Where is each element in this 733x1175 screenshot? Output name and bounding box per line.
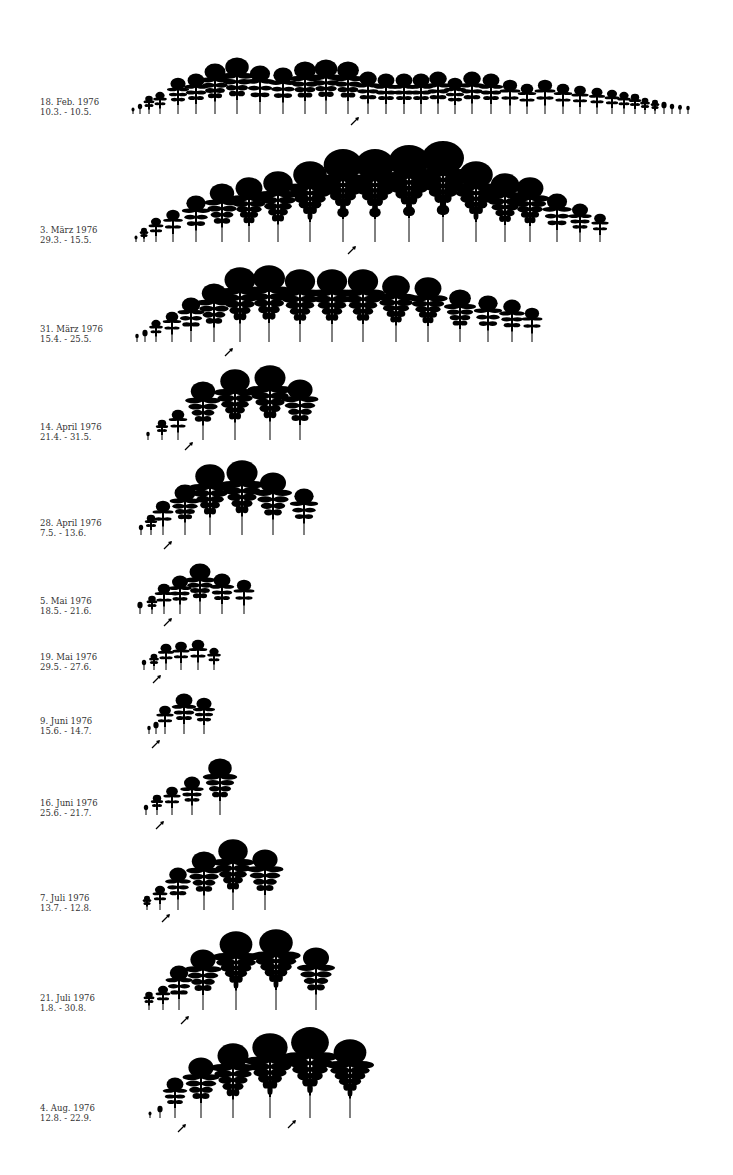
- leaf-icon: [157, 1106, 162, 1118]
- leaf-icon: [554, 84, 572, 114]
- leaf-icon: [245, 66, 275, 114]
- leaf-icon: [132, 108, 135, 115]
- leaf-icon: [135, 236, 138, 243]
- arrow-icon: [153, 675, 161, 683]
- leaf-icon: [479, 74, 504, 114]
- leaf-row-2: [135, 141, 609, 254]
- arrow-icon: [178, 1124, 186, 1132]
- leaf-icon: [142, 660, 146, 670]
- leaf-series-diagram: [0, 0, 733, 1175]
- leaf-icon: [153, 886, 168, 910]
- leaf-icon: [310, 269, 354, 342]
- leaf-icon: [180, 777, 203, 815]
- leaf-icon: [425, 72, 451, 114]
- leaf-icon: [165, 966, 192, 1010]
- leaf-icon: [140, 228, 149, 242]
- leaf-icon: [153, 92, 167, 114]
- leaf-icon: [568, 204, 591, 242]
- leaf-icon: [156, 986, 171, 1010]
- leaf-icon: [213, 369, 256, 440]
- leaf-row-10: [143, 839, 284, 922]
- leaf-icon: [234, 580, 255, 614]
- leaf-icon: [172, 694, 197, 734]
- leaf-icon: [211, 839, 254, 910]
- leaf-icon: [247, 849, 284, 910]
- leaf-icon: [661, 102, 666, 114]
- leaf-icon: [143, 992, 154, 1010]
- leaf-icon: [341, 269, 385, 342]
- leaf-icon: [678, 105, 682, 114]
- arrow-icon: [181, 1016, 189, 1024]
- leaf-icon: [374, 74, 399, 114]
- leaf-icon: [149, 1112, 152, 1119]
- leaf-icon: [145, 515, 157, 535]
- leaf-icon: [146, 596, 157, 614]
- leaf-icon: [522, 308, 543, 342]
- leaf-icon: [189, 640, 207, 670]
- leaf-icon: [518, 84, 536, 114]
- leaf-row-5: [139, 460, 318, 549]
- leaf-icon: [143, 896, 152, 910]
- arrow-icon: [164, 541, 172, 549]
- leaf-icon: [144, 805, 148, 815]
- leaf-icon: [210, 1043, 256, 1118]
- leaf-row-3: [135, 265, 542, 356]
- leaf-icon: [605, 90, 620, 114]
- leaf-icon: [251, 929, 300, 1010]
- leaf-icon: [591, 214, 608, 242]
- arrow-icon: [225, 348, 233, 356]
- leaf-icon: [149, 654, 159, 670]
- leaf-icon: [589, 88, 605, 114]
- leaf-icon: [135, 334, 139, 342]
- leaf-icon: [200, 64, 231, 115]
- leaf-icon: [247, 365, 293, 440]
- leaf-icon: [163, 1078, 188, 1118]
- arrow-icon: [162, 914, 170, 922]
- leaf-icon: [282, 1027, 337, 1118]
- leaf-icon: [153, 722, 158, 734]
- leaf-icon: [142, 330, 147, 342]
- leaf-icon: [269, 68, 297, 114]
- leaf-icon: [640, 98, 650, 114]
- leaf-icon: [444, 78, 466, 114]
- leaf-icon: [147, 726, 151, 734]
- leaf-icon: [474, 296, 502, 342]
- leaf-icon: [149, 320, 163, 342]
- leaf-icon: [204, 183, 240, 242]
- leaf-row-4: [146, 365, 318, 450]
- leaf-icon: [670, 104, 674, 114]
- leaf-icon: [153, 501, 174, 535]
- leaf-icon: [163, 312, 181, 342]
- leaf-icon: [165, 868, 191, 910]
- leaf-icon: [499, 300, 525, 342]
- arrow-icon: [164, 618, 172, 626]
- leaf-icon: [185, 381, 221, 440]
- leaf-icon: [203, 758, 237, 815]
- leaf-icon: [651, 100, 660, 114]
- leaf-icon: [146, 432, 150, 440]
- leaf-icon: [158, 644, 174, 670]
- leaf-icon: [297, 947, 335, 1010]
- arrow-icon: [351, 117, 359, 125]
- arrow-icon: [288, 1120, 296, 1128]
- leaf-row-8: [147, 694, 215, 748]
- leaf-icon: [290, 489, 318, 535]
- arrow-icon: [185, 442, 193, 450]
- leaf-icon: [149, 218, 164, 242]
- arrow-icon: [152, 740, 160, 748]
- leaf-icon: [207, 648, 221, 670]
- leaf-icon: [256, 171, 299, 242]
- leaf-icon: [571, 86, 588, 114]
- leaf-icon: [686, 106, 690, 114]
- arrow-icon: [156, 821, 164, 829]
- leaf-icon: [143, 96, 154, 114]
- leaf-row-12: [149, 1027, 375, 1132]
- leaf-row-7: [142, 640, 221, 683]
- leaf-icon: [193, 698, 215, 734]
- leaf-icon: [137, 602, 142, 614]
- leaf-icon: [535, 80, 556, 114]
- leaf-icon: [138, 104, 142, 114]
- leaf-icon: [169, 410, 187, 440]
- leaf-icon: [172, 642, 189, 670]
- leaf-icon: [617, 92, 631, 114]
